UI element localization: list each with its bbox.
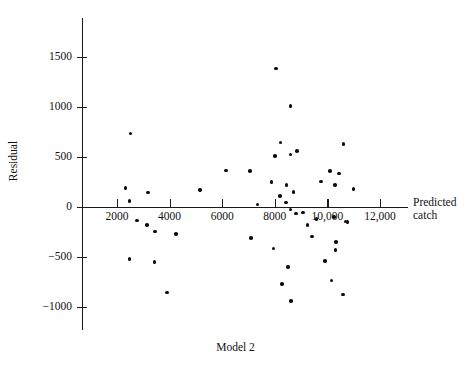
data-point bbox=[342, 142, 346, 146]
y-tick-label: 1500 bbox=[16, 51, 72, 63]
y-tick-label-text: −1000 bbox=[26, 301, 72, 313]
data-point bbox=[285, 183, 289, 187]
y-tick-label: 1000 bbox=[16, 101, 72, 113]
data-point bbox=[224, 169, 228, 173]
y-tick-label-text: 1000 bbox=[26, 101, 72, 113]
data-point bbox=[323, 259, 327, 263]
data-point bbox=[146, 191, 150, 195]
data-point bbox=[328, 169, 332, 173]
x-tick-label: 12,000 bbox=[350, 210, 410, 222]
y-axis-line bbox=[82, 18, 83, 330]
data-point bbox=[145, 223, 149, 227]
x-axis-title-line1: Predicted bbox=[413, 196, 469, 209]
x-axis-line bbox=[82, 207, 408, 208]
x-tick-label: 4000 bbox=[140, 210, 200, 222]
data-point bbox=[272, 247, 276, 251]
data-point bbox=[128, 257, 132, 261]
y-axis-title: Residual bbox=[7, 131, 19, 191]
residual-scatter-figure: 150010005000−500−1000200040006000800010,… bbox=[0, 0, 471, 378]
data-point bbox=[284, 201, 288, 205]
data-point bbox=[198, 188, 202, 192]
data-point bbox=[334, 248, 338, 252]
data-point bbox=[289, 104, 293, 108]
y-tick-label: 0 bbox=[16, 201, 72, 213]
data-point bbox=[352, 187, 356, 191]
data-point bbox=[289, 299, 293, 303]
y-tick-mark bbox=[77, 257, 87, 258]
y-tick-label-text: 0 bbox=[26, 201, 72, 213]
data-point bbox=[270, 180, 274, 184]
data-point bbox=[292, 190, 296, 194]
data-point bbox=[334, 240, 338, 244]
data-point bbox=[330, 279, 334, 283]
data-point bbox=[295, 149, 299, 153]
data-point bbox=[333, 183, 337, 187]
data-point bbox=[337, 172, 341, 176]
x-tick-mark bbox=[170, 199, 171, 207]
data-point bbox=[249, 236, 253, 240]
data-point bbox=[319, 180, 323, 184]
data-point bbox=[332, 215, 336, 219]
data-point bbox=[278, 194, 282, 198]
plot-area: 150010005000−500−1000200040006000800010,… bbox=[0, 0, 471, 378]
y-tick-label-text: −500 bbox=[26, 251, 72, 263]
x-tick-mark bbox=[275, 199, 276, 207]
data-point bbox=[289, 153, 293, 157]
y-tick-label: −500 bbox=[16, 251, 72, 263]
y-tick-label-text: 500 bbox=[26, 151, 72, 163]
data-point bbox=[273, 154, 277, 158]
data-point bbox=[286, 265, 290, 269]
x-tick-mark bbox=[327, 199, 328, 207]
chart-title: Model 2 bbox=[0, 341, 471, 354]
y-tick-label: −1000 bbox=[16, 301, 72, 313]
data-point bbox=[341, 293, 345, 297]
y-tick-mark bbox=[77, 207, 87, 208]
y-tick-mark bbox=[77, 157, 87, 158]
y-tick-mark bbox=[77, 107, 87, 108]
x-tick-mark bbox=[222, 199, 223, 207]
x-tick-mark bbox=[380, 199, 381, 207]
data-point bbox=[124, 186, 128, 190]
x-axis-title: Predicted catch bbox=[413, 196, 469, 221]
data-point bbox=[274, 67, 278, 71]
data-point bbox=[279, 141, 283, 145]
x-tick-mark bbox=[117, 199, 118, 207]
data-point bbox=[346, 220, 350, 224]
y-tick-label-text: 1500 bbox=[26, 51, 72, 63]
data-point bbox=[153, 260, 157, 264]
data-point bbox=[153, 230, 157, 234]
data-point bbox=[128, 199, 132, 203]
data-point bbox=[129, 132, 133, 136]
x-axis-title-line2: catch bbox=[413, 209, 469, 222]
data-point bbox=[306, 223, 310, 227]
data-point bbox=[294, 212, 298, 216]
data-point bbox=[248, 169, 252, 173]
data-point bbox=[174, 232, 178, 236]
y-tick-mark bbox=[77, 57, 87, 58]
y-tick-mark bbox=[77, 307, 87, 308]
data-point bbox=[310, 235, 314, 239]
data-point bbox=[165, 291, 169, 295]
data-point bbox=[280, 282, 284, 286]
data-point bbox=[315, 217, 319, 221]
x-tick-label: 6000 bbox=[192, 210, 252, 222]
y-tick-label: 500 bbox=[16, 151, 72, 163]
